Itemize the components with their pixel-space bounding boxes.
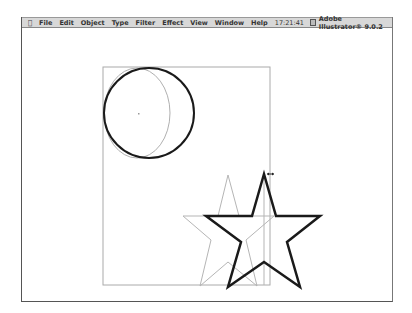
circle-ghost-outline: [104, 68, 170, 158]
circle-shape[interactable]: [104, 68, 194, 158]
artboard-canvas[interactable]: [0, 0, 412, 313]
artboard-border: [103, 67, 270, 285]
star-shape[interactable]: [206, 174, 320, 287]
star-ghost-outline: [183, 175, 274, 286]
circle-center-point: [138, 113, 140, 115]
